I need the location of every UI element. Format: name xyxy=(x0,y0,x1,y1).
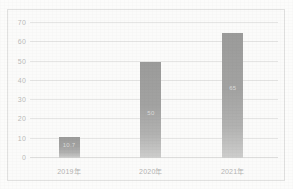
y-tick-label-20: 20 xyxy=(18,115,26,122)
gridline-70: 70 xyxy=(30,22,278,23)
bar-value-label-2021: 65 xyxy=(229,85,236,91)
y-tick-label-30: 30 xyxy=(18,96,26,103)
plot-area: 70 60 50 40 30 20 10 0 10.7 2019年 50 xyxy=(30,23,278,158)
y-tick-label-70: 70 xyxy=(18,19,26,26)
bar-value-label-2020: 50 xyxy=(147,110,154,116)
bar-2019[interactable]: 10.7 2019年 xyxy=(59,137,80,158)
y-tick-label-10: 10 xyxy=(18,134,26,141)
chart-frame: 70 60 50 40 30 20 10 0 10.7 2019年 50 xyxy=(7,9,285,181)
bar-value-label-2019: 10.7 xyxy=(63,142,75,148)
y-tick-label-60: 60 xyxy=(18,38,26,45)
y-tick-label-50: 50 xyxy=(18,57,26,64)
bar-2020[interactable]: 50 2020年 xyxy=(140,62,161,158)
y-tick-label-40: 40 xyxy=(18,76,26,83)
y-tick-label-0: 0 xyxy=(22,154,26,161)
x-tick-label-2020: 2020年 xyxy=(139,166,163,176)
x-tick-label-2019: 2019年 xyxy=(57,166,81,176)
x-tick-label-2021: 2021年 xyxy=(221,166,245,176)
bar-2021[interactable]: 65 2021年 xyxy=(222,33,243,158)
